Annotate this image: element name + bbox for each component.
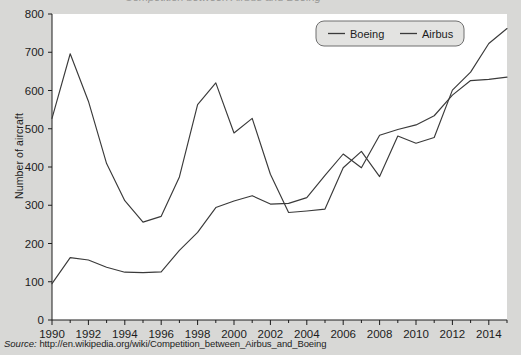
y-tick-label: 600 <box>25 85 44 97</box>
source-caption: Source: http://en.wikipedia.org/wiki/Com… <box>4 338 326 349</box>
y-tick-label: 800 <box>25 8 44 20</box>
figure-container: Competition between Airbus and Boeing Nu… <box>0 0 521 355</box>
x-tick-label: 2006 <box>330 328 356 340</box>
source-url: http://en.wikipedia.org/wiki/Competition… <box>39 338 326 349</box>
y-tick-label: 0 <box>38 314 44 326</box>
x-tick-label: 2010 <box>403 328 429 340</box>
series-line-airbus <box>52 77 507 284</box>
y-tick-label: 500 <box>25 123 44 135</box>
y-tick-label: 300 <box>25 199 44 211</box>
legend-label-airbus: Airbus <box>422 28 454 40</box>
y-tick-label: 100 <box>25 276 44 288</box>
y-tick-label: 400 <box>25 161 44 173</box>
x-tick-label: 2008 <box>367 328 393 340</box>
x-tick-label: 2012 <box>440 328 466 340</box>
x-tick-label: 2014 <box>476 328 502 340</box>
axis-spines <box>52 14 507 320</box>
legend-label-boeing: Boeing <box>350 28 384 40</box>
y-tick-label: 200 <box>25 238 44 250</box>
line-chart: 0100200300400500600700800199019921994199… <box>0 0 521 355</box>
source-label: Source: <box>4 338 37 349</box>
series-line-boeing <box>52 29 507 223</box>
y-tick-label: 700 <box>25 46 44 58</box>
